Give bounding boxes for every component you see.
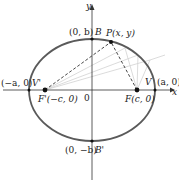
point-v: [154, 89, 157, 92]
x-axis-label: x: [172, 87, 177, 97]
label-v-prime: V': [32, 78, 41, 88]
point-v-prime: [28, 89, 31, 92]
point-f-prime: [43, 88, 48, 93]
label-f: F(c, 0): [124, 94, 155, 104]
radius-f-to-p: [111, 42, 137, 90]
point-b-prime: [90, 139, 93, 142]
label-p: P(x, y): [105, 28, 135, 38]
label-b-coord: (0, b): [69, 27, 93, 37]
ellipse-diagram: y x 0 (0, b) B P(x, y) (0, −b) B' (−a, 0…: [0, 0, 179, 184]
y-axis-label: y: [85, 1, 92, 11]
label-b: B: [94, 27, 102, 37]
label-v-coord: (a, 0): [157, 77, 179, 87]
label-v-prime-coord: (−a, 0): [1, 78, 32, 88]
label-v: V: [145, 77, 153, 87]
label-f-prime: F'(−c, 0): [37, 94, 78, 104]
point-f: [135, 88, 140, 93]
label-b-prime-coord: (0, −b): [65, 145, 97, 155]
label-b-prime: B': [94, 145, 104, 155]
point-p: [109, 40, 113, 44]
origin-label: 0: [84, 93, 90, 103]
point-b: [90, 37, 93, 40]
